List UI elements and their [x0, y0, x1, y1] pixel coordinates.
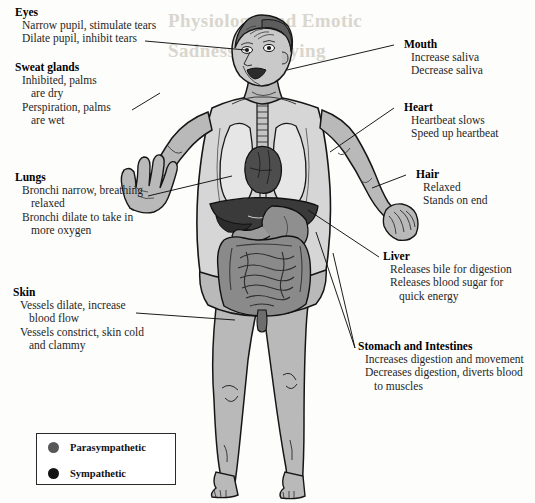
callout-skin: Skin Vessels dilate, increase blood flow…	[13, 286, 144, 353]
callout-sweat-glands-line-1: Inhibited, palms	[22, 74, 111, 87]
callout-lungs-heading: Lungs	[15, 171, 143, 184]
diagram-canvas: Physiology and Emotic Sadness and Lying	[0, 0, 535, 503]
callout-stomach-line-3: to muscles	[365, 380, 524, 393]
sympathetic-dot-icon	[48, 468, 59, 479]
callout-heart-line-2: Speed up heartbeat	[411, 127, 499, 140]
callout-eyes: Eyes Narrow pupil, stimulate tears Dilat…	[15, 6, 156, 46]
right-hand	[383, 204, 418, 241]
callout-sweat-glands-line-3: Perspiration, palms	[22, 101, 111, 114]
ear	[282, 52, 288, 64]
callout-liver: Liver Releases bile for digestion Releas…	[383, 250, 512, 303]
legend-item-parasympathetic: Parasympathetic	[37, 434, 175, 460]
leader-eyes	[145, 41, 246, 50]
callout-sweat-glands-heading: Sweat glands	[15, 61, 111, 74]
callout-hair-line-1: Relaxed	[423, 181, 488, 194]
callout-eyes-line-2: Dilate pupil, inhibit tears	[22, 32, 156, 45]
callout-eyes-line-1: Narrow pupil, stimulate tears	[22, 19, 156, 32]
legend-label-parasympathetic: Parasympathetic	[70, 442, 146, 453]
leader-stomach-2	[333, 253, 355, 348]
callout-mouth-line-1: Increase saliva	[411, 51, 483, 64]
callout-skin-line-2: blood flow	[20, 312, 144, 325]
callout-lungs-line-2: relaxed	[22, 197, 143, 210]
callout-stomach-heading: Stomach and Intestines	[358, 340, 524, 353]
parasympathetic-dot-icon	[48, 442, 59, 453]
callout-hair: Hair Relaxed Stands on end	[416, 168, 488, 208]
callout-mouth-heading: Mouth	[404, 38, 483, 51]
heart	[245, 146, 282, 193]
rectum	[257, 310, 267, 332]
callout-mouth: Mouth Increase saliva Decrease saliva	[404, 38, 483, 78]
callout-liver-line-2: Releases blood sugar for	[390, 276, 512, 289]
legend-label-sympathetic: Sympathetic	[70, 468, 126, 479]
callout-lungs: Lungs Bronchi narrow, breathing relaxed …	[15, 171, 143, 238]
callout-stomach-line-2: Decreases digestion, diverts blood	[365, 366, 524, 379]
callout-heart-line-1: Heartbeat slows	[411, 114, 499, 127]
callout-liver-line-3: quick energy	[390, 290, 512, 303]
callout-skin-line-3: Vessels constrict, skin cold	[20, 326, 144, 339]
callout-skin-line-4: and clammy	[20, 339, 144, 352]
legend-box: Parasympathetic Sympathetic	[36, 433, 176, 485]
legend-item-sympathetic: Sympathetic	[37, 460, 175, 486]
leader-mouth	[287, 45, 394, 70]
callout-sweat-glands-line-4: are wet	[22, 114, 111, 127]
right-pupil	[267, 46, 271, 50]
right-leg	[262, 293, 310, 491]
callout-skin-line-1: Vessels dilate, increase	[20, 299, 144, 312]
callout-heart-heading: Heart	[404, 101, 499, 114]
callout-eyes-heading: Eyes	[15, 6, 156, 19]
callout-mouth-line-2: Decrease saliva	[411, 64, 483, 77]
callout-liver-heading: Liver	[383, 250, 512, 263]
body-figure	[121, 15, 418, 499]
callout-stomach-and-intestines: Stomach and Intestines Increases digesti…	[358, 340, 524, 393]
callout-sweat-glands-line-2: are dry	[22, 87, 111, 100]
callout-liver-line-1: Releases bile for digestion	[390, 263, 512, 276]
callout-lungs-line-4: more oxygen	[22, 224, 143, 237]
left-leg	[213, 292, 258, 492]
callout-hair-heading: Hair	[416, 168, 488, 181]
callout-hair-line-2: Stands on end	[423, 194, 488, 207]
right-arm	[320, 110, 398, 218]
callout-heart: Heart Heartbeat slows Speed up heartbeat	[404, 101, 499, 141]
callout-lungs-line-1: Bronchi narrow, breathing	[22, 184, 143, 197]
callout-stomach-line-1: Increases digestion and movement	[365, 353, 524, 366]
callout-skin-heading: Skin	[13, 286, 144, 299]
callout-lungs-line-3: Bronchi dilate to take in	[22, 211, 143, 224]
callout-sweat-glands: Sweat glands Inhibited, palms are dry Pe…	[15, 61, 111, 128]
leader-sweat-glands	[132, 93, 160, 110]
